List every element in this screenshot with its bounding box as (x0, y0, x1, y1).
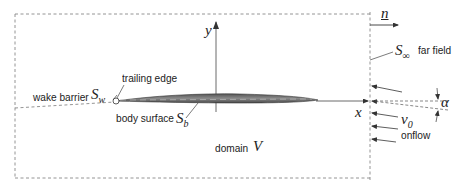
onflow-symbol-text: v (401, 111, 408, 127)
body-symbol: Sb (176, 110, 189, 129)
far-field-symbol-text: S (395, 42, 403, 58)
far-field-label: far field (418, 44, 451, 56)
body-subscript: b (184, 118, 189, 129)
body-surface-label: body surface (116, 112, 174, 124)
onflow-symbol: v0 (401, 111, 413, 130)
onflow-label: onflow (401, 129, 430, 141)
trailing-edge-leader (117, 85, 124, 98)
far-field-subscript: ∞ (403, 50, 410, 61)
x-axis-label: x (355, 104, 362, 121)
domain-label: domain (215, 142, 248, 154)
far-field-leader (370, 52, 393, 60)
angle-alpha-label: α (441, 94, 449, 111)
normal-vector-label: n (381, 5, 389, 22)
y-axis-label: y (205, 22, 212, 39)
airfoil-body (116, 94, 318, 103)
domain-symbol: V (253, 138, 262, 155)
wake-symbol: Sw (91, 86, 105, 105)
far-field-symbol: S∞ (395, 42, 410, 61)
wake-subscript: w (99, 94, 106, 105)
trailing-edge-label: trailing edge (122, 72, 177, 84)
angle-alpha-marker (436, 88, 438, 122)
wake-barrier-label: wake barrier (33, 91, 89, 103)
body-symbol-text: S (176, 110, 184, 126)
wake-symbol-text: S (91, 86, 99, 102)
